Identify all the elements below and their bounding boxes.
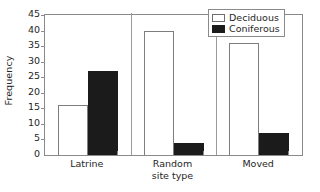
y-axis-tick-mark <box>41 46 45 47</box>
x-axis-tick-label: Moved <box>242 158 274 170</box>
legend-item-deciduous: Deciduous <box>212 12 280 23</box>
y-axis-tick-label: 15 <box>28 103 40 113</box>
y-axis-tick-label: 30 <box>28 56 40 66</box>
x-axis-title-label: site type <box>152 170 193 182</box>
y-axis-tick-mark <box>41 31 45 32</box>
x-axis-minor-tick <box>288 151 289 155</box>
x-axis-minor-tick <box>117 151 118 155</box>
legend-item-label: Coniferous <box>229 24 280 34</box>
y-axis-tick-label: 5 <box>34 134 40 144</box>
bar-chart: Frequency 051015202530354045 LatrineRand… <box>0 0 320 192</box>
bar-moved-deciduous <box>229 43 259 155</box>
y-axis-tick-mark <box>41 15 45 16</box>
bar-random-deciduous <box>144 31 174 155</box>
x-axis-tick-label: Random <box>153 158 192 170</box>
y-axis-title-label: Frequency <box>4 55 15 105</box>
y-axis-tick-label: 40 <box>28 25 40 35</box>
y-axis-tick-mark <box>41 93 45 94</box>
x-axis-tick-label: Latrine <box>70 158 103 170</box>
bar-random-coniferous <box>174 143 204 155</box>
y-axis-tick-mark <box>41 139 45 140</box>
x-axis-minor-tick <box>203 151 204 155</box>
y-axis-tick-mark <box>41 124 45 125</box>
legend-item-coniferous: Coniferous <box>212 23 280 34</box>
bar-moved-coniferous <box>259 133 289 155</box>
bar-latrine-deciduous <box>58 105 88 155</box>
y-axis-tick-label: 35 <box>28 40 40 50</box>
y-axis-tick-label: 20 <box>28 87 40 97</box>
x-axis-tick-labels: LatrineRandomMovedsite type <box>44 158 303 192</box>
chart-legend: DeciduousConiferous <box>208 9 285 37</box>
y-axis-tick-label: 0 <box>34 149 40 159</box>
bar-latrine-coniferous <box>88 71 118 155</box>
y-axis-tick-label: 10 <box>28 118 40 128</box>
y-axis-tick-labels: 051015202530354045 <box>16 14 40 156</box>
y-axis-tick-mark <box>41 62 45 63</box>
legend-swatch-coniferous <box>212 25 225 33</box>
y-axis-tick-label: 45 <box>28 9 40 19</box>
x-axis-group-tick <box>131 13 132 155</box>
y-axis-tick-mark <box>41 77 45 78</box>
legend-item-label: Deciduous <box>229 13 279 23</box>
y-axis-tick-mark <box>41 108 45 109</box>
y-axis-tick-label: 25 <box>28 71 40 81</box>
legend-swatch-deciduous <box>212 14 225 22</box>
